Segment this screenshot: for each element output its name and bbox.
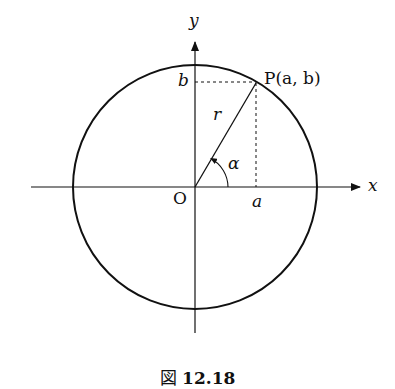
point-label: P(a, b) bbox=[264, 70, 321, 87]
caption-prefix: 図 bbox=[160, 368, 177, 388]
x-axis-label: x bbox=[368, 177, 378, 194]
figure-caption: 図 12.18 bbox=[0, 364, 395, 389]
radius-label: r bbox=[213, 106, 221, 123]
a-label: a bbox=[252, 193, 262, 210]
angle-label: α bbox=[228, 155, 239, 172]
caption-number: 12.18 bbox=[182, 368, 235, 388]
b-label: b bbox=[178, 72, 189, 89]
radius-line bbox=[195, 83, 256, 187]
origin-label: O bbox=[173, 190, 187, 207]
angle-arc-icon bbox=[211, 159, 228, 188]
unit-circle-diagram bbox=[0, 0, 395, 389]
y-axis-label: y bbox=[189, 12, 199, 29]
